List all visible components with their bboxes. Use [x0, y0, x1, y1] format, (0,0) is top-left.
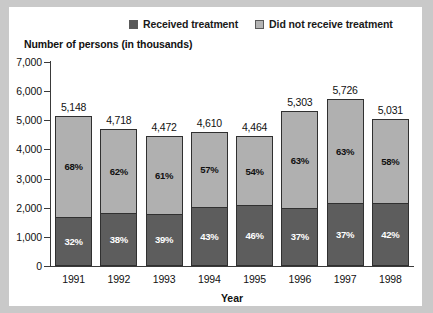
y-axis-tick-label: 2,000 — [0, 202, 42, 214]
bar-segment-label: 42% — [381, 229, 399, 240]
bar-segment-label: 63% — [336, 146, 354, 157]
x-axis-tick-label: 1993 — [142, 273, 187, 285]
y-axis-tick — [44, 208, 50, 209]
y-axis-tick-label: 7,000 — [0, 56, 42, 68]
bar-segment-not-received[interactable]: 54% — [237, 137, 272, 206]
bar-group: 63%37% — [281, 111, 318, 266]
stacked-bar[interactable]: 57%43% — [191, 132, 228, 266]
stacked-bar[interactable]: 58%42% — [372, 119, 409, 266]
x-axis-tick-label: 1998 — [368, 273, 413, 285]
bar-segment-received[interactable]: 39% — [147, 215, 182, 265]
x-axis-title: Year — [51, 292, 413, 304]
legend-swatch-not-received — [255, 20, 264, 29]
bar-segment-not-received[interactable]: 68% — [56, 117, 91, 218]
legend-item-received: Received treatment — [129, 18, 238, 30]
y-axis-tick — [44, 237, 50, 238]
bar-segment-received[interactable]: 43% — [192, 208, 227, 265]
bar-segment-received[interactable]: 38% — [101, 214, 136, 265]
bar-group: 58%42% — [372, 119, 409, 266]
bar-total-label: 4,610 — [197, 117, 222, 129]
y-axis-tick — [44, 62, 50, 63]
bar-segment-label: 68% — [64, 161, 82, 172]
y-axis-tick-label: 3,000 — [0, 173, 42, 185]
y-axis-tick-label: 6,000 — [0, 85, 42, 97]
y-axis-tick-label: 5,000 — [0, 114, 42, 126]
bar-segment-not-received[interactable]: 63% — [328, 100, 363, 204]
x-axis-tick-label: 1991 — [51, 273, 96, 285]
bar-group: 62%38% — [100, 129, 137, 266]
bar-segment-received[interactable]: 37% — [282, 209, 317, 265]
bar-segment-label: 43% — [200, 231, 218, 242]
bar-segment-label: 61% — [155, 170, 173, 181]
y-axis-tick-label: 4,000 — [0, 143, 42, 155]
y-axis-tick — [44, 179, 50, 180]
x-axis-tick-label: 1994 — [187, 273, 232, 285]
bar-segment-label: 62% — [110, 166, 128, 177]
bar-segment-not-received[interactable]: 62% — [101, 130, 136, 214]
x-axis-tick-label: 1995 — [232, 273, 277, 285]
legend-label-received: Received treatment — [143, 18, 238, 30]
bar-total-label: 4,718 — [106, 114, 131, 126]
bar-group: 54%46% — [236, 136, 273, 266]
stacked-bar[interactable]: 61%39% — [146, 136, 183, 266]
bar-segment-label: 32% — [64, 236, 82, 247]
bar-group: 68%32% — [55, 116, 92, 266]
bar-group: 57%43% — [191, 132, 228, 266]
legend-label-not-received: Did not receive treatment — [269, 18, 393, 30]
y-axis-tick — [44, 120, 50, 121]
bar-total-label: 5,726 — [332, 84, 357, 96]
bar-segment-label: 37% — [336, 229, 354, 240]
x-axis-line — [50, 266, 414, 267]
y-axis-title: Number of persons (in thousands) — [24, 38, 192, 50]
bar-group: 61%39% — [146, 136, 183, 266]
y-axis-tick — [44, 91, 50, 92]
bar-segment-label: 38% — [110, 234, 128, 245]
bar-total-label: 4,464 — [242, 121, 267, 133]
stacked-bar[interactable]: 63%37% — [327, 99, 364, 266]
bar-segment-received[interactable]: 42% — [373, 204, 408, 265]
bar-segment-label: 46% — [245, 230, 263, 241]
bar-segment-label: 37% — [291, 231, 309, 242]
bar-segment-label: 39% — [155, 234, 173, 245]
y-axis-tick-labels: 7,0006,0005,0004,0003,0002,0001,0000 — [0, 0, 42, 313]
chart-legend: Received treatment Did not receive treat… — [129, 18, 393, 30]
bar-segment-received[interactable]: 32% — [56, 218, 91, 265]
bar-segment-not-received[interactable]: 58% — [373, 120, 408, 204]
plot-area: 68%32%62%38%61%39%57%43%54%46%63%37%63%3… — [51, 62, 413, 266]
bar-group: 63%37% — [327, 99, 364, 266]
bar-segment-label: 58% — [381, 156, 399, 167]
bar-total-label: 5,303 — [287, 96, 312, 108]
bar-segment-label: 63% — [291, 155, 309, 166]
bar-segment-received[interactable]: 37% — [328, 204, 363, 265]
stacked-bar[interactable]: 68%32% — [55, 116, 92, 266]
bar-total-label: 5,148 — [61, 101, 86, 113]
figure-container: Received treatment Did not receive treat… — [0, 0, 433, 313]
bar-segment-label: 54% — [245, 166, 263, 177]
legend-item-not-received: Did not receive treatment — [255, 18, 393, 30]
stacked-bar[interactable]: 54%46% — [236, 136, 273, 266]
legend-swatch-received — [129, 20, 138, 29]
y-axis-tick — [44, 266, 50, 267]
bar-segment-received[interactable]: 46% — [237, 206, 272, 265]
x-axis-tick-label: 1992 — [96, 273, 141, 285]
bar-segment-not-received[interactable]: 63% — [282, 112, 317, 208]
bar-total-label: 4,472 — [151, 121, 176, 133]
bar-segment-not-received[interactable]: 61% — [147, 137, 182, 215]
y-axis-tick — [44, 149, 50, 150]
y-axis-tick-label: 1,000 — [0, 231, 42, 243]
x-axis-tick-label: 1996 — [277, 273, 322, 285]
y-axis-tick-label: 0 — [0, 260, 42, 272]
stacked-bar[interactable]: 63%37% — [281, 111, 318, 266]
x-axis-tick-label: 1997 — [323, 273, 368, 285]
bar-total-label: 5,031 — [378, 104, 403, 116]
stacked-bar[interactable]: 62%38% — [100, 129, 137, 266]
bar-segment-not-received[interactable]: 57% — [192, 133, 227, 208]
bar-segment-label: 57% — [200, 164, 218, 175]
